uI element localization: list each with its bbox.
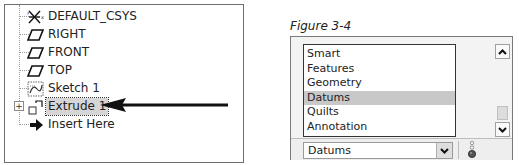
filter-bottom-bar: Datums	[291, 138, 512, 160]
tree-item-label: Insert Here	[48, 116, 115, 133]
datum-plane-icon	[27, 62, 45, 79]
datum-plane-icon	[27, 44, 45, 61]
annotation-arrow-icon	[100, 97, 230, 113]
list-item-annotation[interactable]: Annotation	[304, 120, 455, 135]
svg-text:x: x	[41, 14, 44, 20]
filter-dropdown[interactable]: Datums	[303, 142, 453, 159]
list-item-quilts[interactable]: Quilts	[304, 105, 455, 120]
scroll-up-button[interactable]	[495, 44, 510, 59]
tree-item-label: FRONT	[48, 44, 89, 61]
figure-caption: Figure 3-4	[290, 19, 351, 33]
tree-filter-panel: Smart Features Geometry Datums Quilts An…	[290, 36, 513, 160]
vertical-scrollbar[interactable]	[495, 44, 510, 137]
list-item-smart[interactable]: Smart	[304, 47, 455, 62]
datum-plane-icon	[27, 26, 45, 43]
tree-item-default-csys[interactable]: x y DEFAULT_CSYS	[5, 8, 243, 25]
sketch-icon	[27, 80, 45, 97]
list-item-features[interactable]: Features	[304, 62, 455, 77]
chevron-up-icon	[498, 49, 507, 55]
tree-item-top[interactable]: TOP	[5, 62, 243, 79]
tree-item-label: Sketch 1	[48, 80, 100, 97]
tree-item-label: TOP	[48, 62, 72, 79]
scroll-down-button[interactable]	[495, 122, 510, 137]
tree-item-label: RIGHT	[48, 26, 86, 43]
expand-toggle[interactable]: +	[14, 101, 24, 111]
tree-item-label: DEFAULT_CSYS	[48, 8, 137, 25]
tree-item-sketch-1[interactable]: Sketch 1	[5, 80, 243, 97]
tree-item-right[interactable]: RIGHT	[5, 26, 243, 43]
dropdown-value: Datums	[308, 144, 351, 157]
model-tree-panel: x y DEFAULT_CSYS RIGHT FRONT	[4, 4, 244, 163]
scroll-thumb[interactable]	[497, 106, 508, 120]
list-item-datums[interactable]: Datums	[304, 91, 455, 106]
extrude-icon	[27, 98, 45, 115]
list-item-geometry[interactable]: Geometry	[304, 76, 455, 91]
coordinate-system-icon: x y	[27, 8, 45, 25]
divider	[458, 141, 459, 159]
status-indicator-icon[interactable]	[466, 140, 478, 160]
filter-listbox[interactable]: Smart Features Geometry Datums Quilts An…	[303, 44, 456, 137]
dropdown-toggle-button[interactable]	[436, 143, 452, 158]
chevron-down-icon	[498, 127, 507, 133]
tree-item-front[interactable]: FRONT	[5, 44, 243, 61]
tree-item-insert-here[interactable]: Insert Here	[5, 116, 243, 133]
chevron-down-icon	[440, 148, 449, 154]
insert-arrow-icon	[27, 116, 45, 133]
